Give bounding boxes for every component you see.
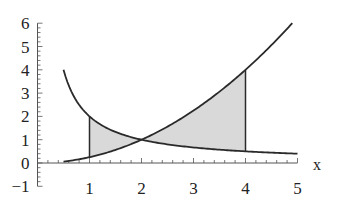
x-tick-label: 1 <box>85 179 94 198</box>
area-between-curves-chart: −1012345612345 x <box>0 0 338 215</box>
axes <box>38 23 298 186</box>
y-tick-label: 1 <box>21 131 30 150</box>
y-tick-label: −1 <box>11 177 29 196</box>
y-tick-label: 3 <box>21 84 30 103</box>
x-tick-label: 5 <box>293 179 302 198</box>
y-tick-label: 0 <box>21 154 30 173</box>
y-tick-label: 4 <box>21 61 30 80</box>
y-tick-label: 2 <box>21 107 30 126</box>
y-tick-label: 6 <box>21 14 30 33</box>
x-tick-label: 3 <box>189 179 198 198</box>
tick-labels: −1012345612345 <box>11 14 301 198</box>
x-axis-label: x <box>313 156 321 173</box>
y-tick-label: 5 <box>21 38 30 57</box>
x-tick-label: 2 <box>137 179 146 198</box>
x-tick-label: 4 <box>241 179 250 198</box>
